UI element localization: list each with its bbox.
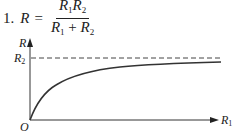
origin-label: O [20,120,29,133]
x-axis-arrow-icon [210,117,219,123]
y-axis-arrow-icon [27,38,33,47]
graph: R R2 O R1 [0,0,233,133]
x-axis-label: R1 [220,113,232,128]
y-axis-label: R [18,36,27,50]
curve [30,62,221,120]
r2-tick-label: R2 [13,51,25,66]
